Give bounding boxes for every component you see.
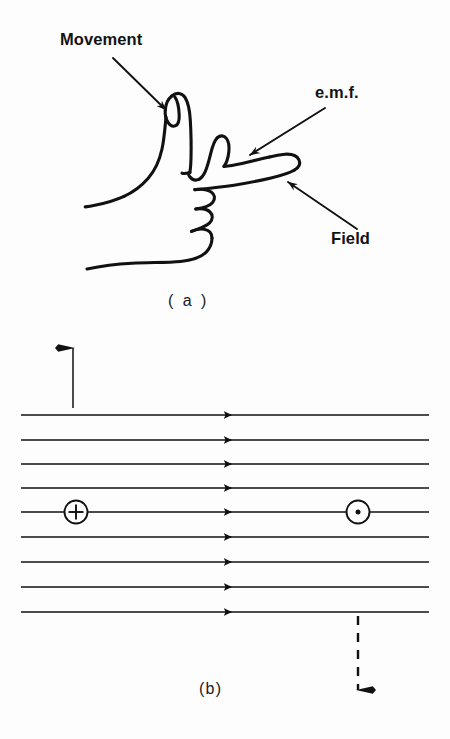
second-finger-curl: [195, 189, 215, 209]
figure-svg: [0, 0, 450, 739]
wrist-upper-edge: [85, 196, 124, 207]
caption-panel-a: ( a ): [168, 292, 209, 310]
movement-pointer-arrow: [113, 58, 166, 110]
ring-finger-curl: [192, 209, 213, 232]
hand-drawing: [85, 93, 299, 269]
label-emf: e.m.f.: [315, 83, 359, 102]
middle-finger-left-contour: [199, 138, 217, 179]
thumb-nail-notch: [165, 96, 179, 126]
thumb-base-crease: [182, 173, 190, 174]
palm-bottom-contour: [87, 238, 212, 269]
caption-panel-b: (b): [199, 680, 222, 698]
figure-root: Movement e.m.f. Field ( a ) (b): [0, 0, 450, 739]
index-fingertip: [270, 154, 300, 170]
label-field: Field: [331, 229, 370, 248]
current-into-page-icon: [65, 501, 88, 524]
index-finger-upper-edge: [224, 157, 270, 166]
label-movement: Movement: [60, 30, 142, 49]
emf-pointer-arrow: [250, 108, 325, 155]
thumb-outer-contour: [172, 93, 192, 172]
field-pointer-arrow: [288, 182, 357, 229]
thumb-left-contour: [124, 117, 166, 196]
index-finger-lower-edge: [195, 170, 295, 190]
motion-arrows: [73, 348, 358, 690]
middle-finger-right-contour: [217, 136, 229, 167]
current-out-of-page-icon: [347, 501, 370, 524]
